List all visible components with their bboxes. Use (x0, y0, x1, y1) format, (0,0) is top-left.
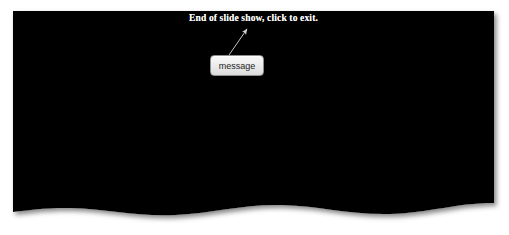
pointer-arrow-icon (229, 29, 247, 55)
slide-panel-wrapper: End of slide show, click to exit. messag… (0, 0, 509, 235)
slide-content: End of slide show, click to exit. messag… (13, 11, 494, 220)
slideshow-end-screenshot: End of slide show, click to exit. messag… (0, 0, 509, 235)
message-callout-box[interactable]: message (210, 55, 264, 76)
end-of-slideshow-text[interactable]: End of slide show, click to exit. (13, 12, 494, 24)
message-callout-label: message (219, 61, 256, 71)
callout-pointer-line (13, 11, 494, 220)
